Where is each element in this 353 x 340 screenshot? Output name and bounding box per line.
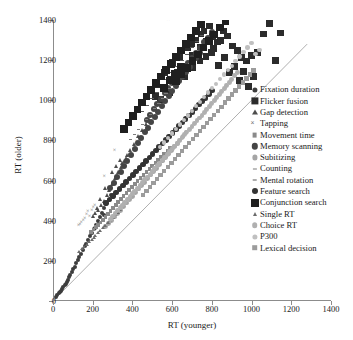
x-tick-label-800: 800 (205, 305, 218, 314)
data-point (177, 63, 185, 71)
data-point (240, 68, 247, 75)
dot-marker-icon (250, 152, 259, 163)
data-point (233, 88, 237, 92)
data-point (221, 54, 228, 61)
data-point (195, 41, 199, 42)
legend-item-label: Memory scanning (259, 142, 322, 151)
data-point (187, 34, 195, 42)
data-point (244, 76, 248, 80)
data-point (133, 134, 136, 135)
data-point (114, 164, 118, 168)
legend-item-choice-rt[interactable]: Choice RT (250, 220, 353, 231)
data-point (120, 125, 128, 133)
legend-item-label: Gap detection (259, 108, 308, 117)
legend-item-flicker-fusion[interactable]: Flicker fusion (250, 95, 353, 106)
legend-item-lexical-decision[interactable]: Lexical decision (250, 242, 353, 253)
data-point (205, 121, 209, 125)
data-point (217, 37, 224, 44)
data-point (234, 47, 241, 54)
legend-item-label: P300 (259, 232, 278, 241)
data-point (222, 72, 226, 76)
data-point (145, 119, 148, 120)
legend-item-single-rt[interactable]: Single RT (250, 208, 353, 219)
data-point (249, 41, 253, 45)
data-point (101, 226, 105, 229)
dash-marker-icon (250, 175, 259, 186)
legend-item-conjunction-search[interactable]: Conjunction search (250, 197, 353, 208)
data-point (170, 131, 174, 135)
data-point (145, 105, 149, 106)
data-point (166, 77, 174, 85)
data-point (235, 70, 240, 75)
legend-item-movement-time[interactable]: Movement time (250, 129, 353, 140)
legend-item-label: Subitizing (259, 153, 295, 162)
data-point (201, 125, 205, 129)
data-point (248, 72, 252, 76)
data-point (243, 58, 250, 65)
data-point (277, 30, 284, 37)
y-tick-label-1400: 1400 (39, 16, 56, 25)
data-point (200, 44, 208, 52)
legend-item-label: Choice RT (259, 221, 297, 230)
data-point (190, 47, 194, 48)
data-point (153, 108, 156, 109)
data-point (178, 122, 182, 126)
legend-item-gap-detection[interactable]: Gap detection (250, 107, 353, 118)
data-point (226, 96, 230, 100)
data-point (103, 200, 109, 206)
data-point (187, 141, 191, 145)
data-point (266, 20, 273, 27)
data-point (166, 165, 170, 169)
data-point (230, 92, 234, 96)
data-point (162, 140, 166, 144)
data-point (176, 153, 180, 157)
legend-item-mental-rotation[interactable]: Mental rotation (250, 174, 353, 185)
y-tick-label-1200: 1200 (39, 56, 56, 65)
y-axis-title: RT (older) (13, 105, 23, 205)
data-point (219, 105, 223, 109)
data-point (214, 82, 218, 86)
x-tick-label-1200: 1200 (283, 305, 300, 314)
triangle-marker-icon (250, 107, 259, 118)
legend-item-tapping[interactable]: ×Tapping (250, 118, 353, 129)
data-point (157, 103, 160, 104)
data-point (137, 129, 140, 130)
x-tick-label-1000: 1000 (243, 305, 260, 314)
data-point (194, 51, 202, 59)
y-tick-label-800: 800 (43, 136, 56, 145)
data-point (172, 53, 180, 61)
x-tick-label-200: 200 (86, 305, 99, 314)
legend-item-fixation-duration[interactable]: Fixation duration (250, 84, 353, 95)
data-point (205, 37, 213, 45)
legend-item-p300[interactable]: P300 (250, 231, 353, 242)
data-point (129, 139, 132, 140)
data-point (245, 45, 249, 49)
x-axis-line (53, 300, 331, 301)
data-point (222, 20, 230, 25)
legend-item-counting[interactable]: Counting (250, 163, 353, 174)
data-point (192, 27, 200, 35)
legend-item-subitizing[interactable]: Subitizing (250, 152, 353, 163)
data-point (141, 124, 144, 125)
data-point (180, 60, 184, 61)
data-point: × (75, 223, 81, 229)
y-tick-label-400: 400 (43, 217, 56, 226)
data-point (257, 48, 261, 52)
data-point (206, 90, 210, 94)
data-point (186, 113, 190, 117)
square-marker-icon (250, 197, 259, 208)
data-point (155, 92, 159, 93)
data-point (237, 54, 241, 58)
legend-item-feature-search[interactable]: Feature search (250, 186, 353, 197)
data-point (191, 137, 195, 141)
data-point (171, 70, 179, 78)
data-point (183, 64, 191, 72)
data-point (260, 31, 267, 38)
data-point (169, 161, 173, 165)
data-point (103, 224, 107, 227)
legend-item-memory-scanning[interactable]: Memory scanning (250, 140, 353, 151)
data-point (197, 21, 205, 29)
y-tick-label-200: 200 (43, 257, 56, 266)
data-point (105, 193, 109, 197)
data-point (132, 146, 138, 152)
